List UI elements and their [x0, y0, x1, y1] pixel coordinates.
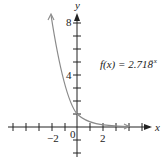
y-axis-label: y: [74, 0, 80, 11]
function-label-exponent: −x: [149, 57, 158, 65]
x-axis: x −2 0 2: [8, 121, 160, 144]
y-tick-label-4: 4: [66, 69, 72, 81]
exponential-graph: x −2 0 2 y 8 4 f(x) = 2.718 −x: [0, 0, 164, 161]
x-tick-label-neg2: −2: [47, 132, 59, 144]
x-tick-label-2: 2: [100, 132, 106, 144]
x-axis-label: x: [154, 121, 160, 133]
origin-label: 0: [70, 128, 76, 140]
function-curve: [48, 14, 129, 129]
y-axis-arrow-icon: [74, 13, 80, 21]
function-label: f(x) = 2.718 −x: [100, 57, 158, 71]
function-label-text: f(x) = 2.718: [100, 58, 153, 71]
x-axis-arrow-icon: [144, 124, 152, 130]
y-tick-label-8: 8: [66, 16, 72, 28]
